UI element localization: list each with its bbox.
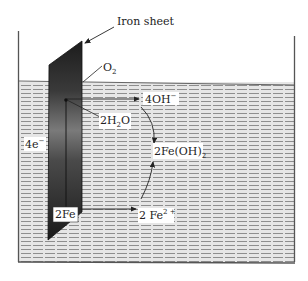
oxygen-leader-line [83,66,102,82]
iron-sheet-label: Iron sheet [117,15,175,28]
ferrous-hydroxide-label: 2Fe(OH)2 [154,145,206,160]
water-label: 2H2O [100,114,130,129]
container-bottom [18,262,295,263]
iron-sheet-callout-arrow [85,27,114,43]
oxygen-label: O2 [103,61,117,76]
iron-corrosion-diagram: Iron sheet O2 4OH− 2H2O 4e− 2Fe(OH)2 2Fe… [0,0,308,281]
iron-label: 2Fe [55,208,76,221]
diagram-canvas: Iron sheet O2 4OH− 2H2O 4e− 2Fe(OH)2 2Fe… [0,0,308,281]
